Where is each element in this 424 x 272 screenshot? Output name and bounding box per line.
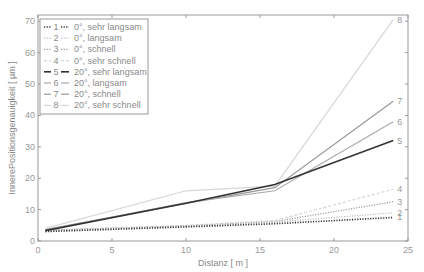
y-tick-label: 20: [25, 173, 35, 183]
y-tick-label: 40: [25, 110, 35, 120]
x-axis-label: Distanz [ m ]: [198, 258, 248, 268]
legend-id-6: 6: [53, 78, 58, 88]
x-tick-label: 15: [255, 245, 265, 255]
legend-id-1: 1: [53, 22, 58, 32]
legend-id-8: 8: [53, 100, 58, 110]
y-tick-label: 30: [25, 142, 35, 152]
x-tick-label: 20: [329, 245, 339, 255]
y-axis-label: InnerePositionsgenauigkeit [ µm ]: [7, 61, 17, 194]
y-tick-label: 10: [25, 205, 35, 215]
legend-id-5: 5: [53, 67, 58, 77]
y-tick-label: 70: [25, 16, 35, 26]
x-tick-label: 25: [403, 245, 413, 255]
x-tick-label: 0: [35, 245, 40, 255]
series-line-4: [45, 189, 393, 230]
y-tick-label: 0: [30, 236, 35, 246]
legend-label-5: 20°, sehr langsam: [74, 67, 147, 77]
series-line-6: [45, 122, 393, 230]
chart-container: 0510152025010203040506070Distanz [ m ]In…: [0, 0, 424, 272]
x-tick-label: 10: [181, 245, 191, 255]
series-line-3: [45, 202, 393, 231]
series-line-5: [45, 141, 393, 231]
legend-label-1: 0°, sehr langsam: [74, 22, 142, 32]
legend-label-4: 0°, sehr schnell: [74, 56, 136, 66]
series-end-label-2: 2: [397, 208, 402, 218]
line-chart: 0510152025010203040506070Distanz [ m ]In…: [0, 0, 424, 272]
legend-id-7: 7: [53, 89, 58, 99]
y-tick-label: 60: [25, 48, 35, 58]
series-end-label-5: 5: [397, 136, 402, 146]
series-end-label-6: 6: [397, 117, 402, 127]
series-end-label-7: 7: [397, 96, 402, 106]
legend-label-3: 0°, schnell: [74, 44, 116, 54]
legend-label-2: 0°, langsam: [74, 33, 122, 43]
legend-label-6: 20°, langsam: [74, 78, 127, 88]
series-end-label-8: 8: [397, 15, 402, 25]
series-end-label-3: 3: [397, 197, 402, 207]
series-end-label-4: 4: [397, 184, 402, 194]
y-tick-label: 50: [25, 79, 35, 89]
legend-label-7: 20°, schnell: [74, 89, 121, 99]
legend-label-8: 20°, sehr schnell: [74, 100, 141, 110]
x-tick-label: 5: [109, 245, 114, 255]
legend-id-2: 2: [53, 33, 58, 43]
legend-id-4: 4: [53, 56, 58, 66]
legend-id-3: 3: [53, 44, 58, 54]
